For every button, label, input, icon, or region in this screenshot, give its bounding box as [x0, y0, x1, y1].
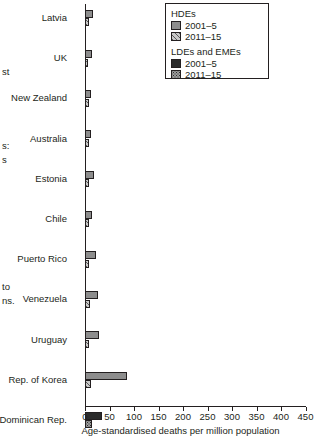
- legend-swatch-lde-2001-5: [171, 59, 181, 68]
- bar-row: Serbia: [0, 225, 315, 245]
- legend-entry: 2011–15: [171, 31, 263, 42]
- bar-row: Puerto Rico: [0, 125, 315, 145]
- bar-row: Dominican Rep.: [0, 205, 315, 225]
- legend-entry-label: 2011–15: [185, 31, 221, 42]
- bar-row: Thailand: [0, 245, 315, 265]
- chart-canvas: sts:stons. LatviaUKNew ZealandAustraliaE…: [0, 0, 315, 442]
- bar-row: Chile: [0, 105, 315, 125]
- legend-swatch-hde-2011-15: [171, 32, 181, 41]
- legend-entry-label: 2001–5: [185, 58, 217, 69]
- legend-entry-label: 2011–15: [185, 69, 221, 80]
- bar-row: Fiji: [0, 386, 315, 406]
- bar-row: Venezuela: [0, 145, 315, 165]
- bar-row: Estonia: [0, 84, 315, 104]
- bar-row: Rep. of Korea: [0, 185, 315, 205]
- legend-swatch-hde-2001-5: [171, 21, 181, 30]
- legend: HDEs2001–52011–15LDEs and EMEs2001–52011…: [165, 3, 269, 79]
- legend-entry: 2001–5: [171, 20, 263, 31]
- bar-row: Egypt: [0, 285, 315, 305]
- legend-entry: 2001–5: [171, 58, 263, 69]
- bar-row: Guatemala: [0, 265, 315, 285]
- legend-entry: 2011–15: [171, 69, 263, 80]
- x-tick-label: 450: [291, 411, 316, 422]
- bar-row: Mauritius: [0, 326, 315, 346]
- bar-latvia-series-1: [85, 10, 93, 18]
- legend-group-title: LDEs and EMEs: [171, 46, 263, 58]
- x-axis-title: Age-standardised deaths per million popu…: [0, 425, 315, 436]
- category-label-latvia: Latvia: [42, 12, 67, 23]
- bar-row: Uruguay: [0, 165, 315, 185]
- category-label-dominican-rep: Dominican Rep.: [0, 414, 67, 425]
- legend-entry-label: 2001–5: [185, 20, 217, 31]
- bar-row: Philippines: [0, 366, 315, 386]
- legend-swatch-lde-2011-15: [171, 70, 181, 79]
- x-axis-line: [85, 406, 306, 407]
- legend-group-title: HDEs: [171, 8, 263, 20]
- bar-row: South Africa: [0, 346, 315, 366]
- bar-row: Uzbekistan: [0, 306, 315, 326]
